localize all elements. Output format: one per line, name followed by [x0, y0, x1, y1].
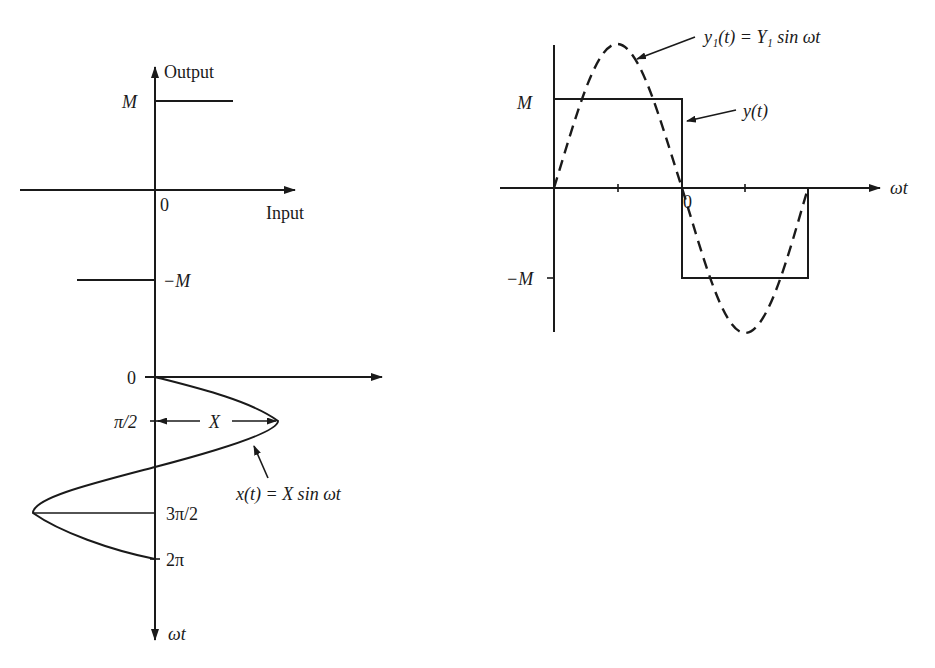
input-axis-label: Input	[266, 203, 304, 223]
tick-label-0: 0	[127, 368, 136, 388]
describing-function-diagram: Output Input 0 M −M X 0 π/2 3π/2 2π ωt x…	[0, 0, 935, 668]
amplitude-label: X	[208, 412, 221, 432]
curve-annotation-arrow	[254, 446, 268, 478]
origin-label: 0	[160, 195, 169, 215]
tick-label-3pi-over-2: 3π/2	[166, 504, 198, 524]
output-time-axis-label: ωt	[890, 178, 909, 198]
input-sinusoid-plot: X 0 π/2 3π/2 2π ωt x(t) = X sin ωt	[33, 360, 382, 644]
tick-label-pi-over-2: π/2	[114, 412, 137, 432]
upper-level-label: M	[121, 92, 138, 112]
output-lower-level-label: −M	[506, 269, 534, 289]
input-curve-label: x(t) = X sin ωt	[235, 484, 342, 505]
output-waveform-plot: M −M 0 ωt y(t) y₁(t) = Y₁ sin ωt	[500, 27, 909, 333]
square-wave-label: y(t)	[741, 101, 768, 122]
square-wave-annotation-arrow	[687, 110, 736, 121]
fundamental-label: y₁(t) = Y₁ sin ωt	[702, 27, 821, 48]
time-axis-label: ωt	[168, 624, 187, 644]
tick-label-2pi: 2π	[166, 550, 184, 570]
output-upper-level-label: M	[516, 93, 533, 113]
output-origin-label: 0	[683, 192, 692, 212]
lower-level-label: −M	[163, 271, 191, 291]
fundamental-annotation-arrow	[637, 37, 695, 59]
output-axis-label: Output	[164, 62, 214, 82]
relay-characteristic-plot: Output Input 0 M −M	[20, 62, 304, 360]
